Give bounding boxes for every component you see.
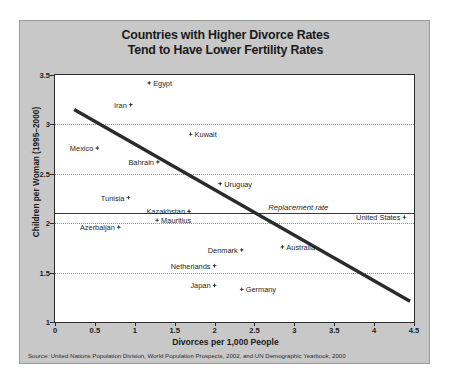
data-label-iran: Iran (114, 100, 127, 109)
y-tick-label: 3 (46, 120, 50, 129)
annotation-replacement-rate: Replacement rate (268, 203, 328, 212)
chart-title: Countries with Higher Divorce Rates Tend… (20, 28, 431, 58)
data-label-kazakhstan: Kazakhstan (146, 207, 185, 216)
data-label-japan: Japan (190, 281, 210, 290)
source-note: Source: United Nations Population Divisi… (28, 352, 346, 359)
x-tick-label: 3.5 (329, 326, 340, 335)
data-label-uruguay: Uruguay (224, 179, 252, 188)
x-tick-label: 4.5 (409, 326, 420, 335)
data-label-mauritius: Mauritius (161, 216, 191, 225)
chart-title-line2: Tend to Have Lower Fertility Rates (20, 43, 431, 58)
data-label-azerbaijan: Azerbaijan (80, 223, 115, 232)
x-tick-label: 0 (53, 326, 57, 335)
y-tick-label: 1 (46, 318, 50, 327)
x-tick-label: 2.5 (249, 326, 260, 335)
x-axis-label: Divorces per 1,000 People (20, 337, 431, 347)
chart-figure: Countries with Higher Divorce Rates Tend… (19, 20, 430, 364)
data-label-germany: Germany (246, 285, 276, 294)
x-tick-label: 2 (212, 326, 216, 335)
data-label-egypt: Egypt (153, 78, 172, 87)
y-tick-label: 2 (46, 219, 50, 228)
chart-title-line1: Countries with Higher Divorce Rates (122, 28, 330, 42)
x-tick-label: 1.5 (169, 326, 180, 335)
plot-area: 11.522.533.500.511.522.533.544.5Replacem… (54, 74, 415, 323)
x-tick-label: 0.5 (90, 326, 101, 335)
y-tick-label: 3.5 (39, 71, 50, 80)
x-tick-label: 3 (292, 326, 296, 335)
data-label-australia: Australia (286, 242, 315, 251)
data-label-united-states: United States (356, 213, 400, 222)
data-label-bahrain: Bahrain (128, 157, 153, 166)
x-tick-label: 1 (133, 326, 137, 335)
data-label-tunisia: Tunisia (101, 193, 125, 202)
y-tick-label: 2.5 (39, 169, 50, 178)
data-label-denmark: Denmark (208, 245, 238, 254)
y-tick-label: 1.5 (39, 268, 50, 277)
data-label-kuwait: Kuwait (195, 130, 217, 139)
data-label-mexico: Mexico (70, 144, 93, 153)
data-label-netherlands: Netherlands (171, 261, 211, 270)
x-tick-label: 4 (372, 326, 376, 335)
